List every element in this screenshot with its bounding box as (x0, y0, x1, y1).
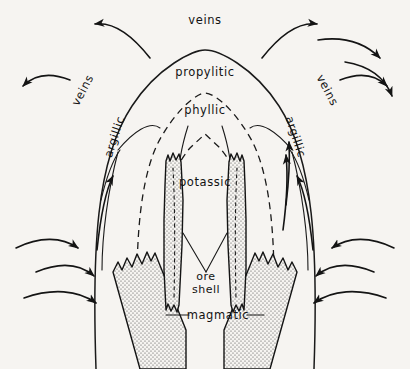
argillic-flank-lines (102, 152, 308, 270)
label-ore-shell-line1: ore (196, 270, 215, 283)
ore-shell-leader-lines (183, 233, 227, 272)
label-veins-top: veins (188, 13, 221, 27)
flow-arrows-lower-right (314, 239, 394, 303)
flow-arrows-lower-left (16, 239, 96, 303)
interior-convection-arrows (97, 142, 313, 250)
label-veins-left: veins (68, 72, 96, 108)
label-argillic-left: argillic (101, 114, 128, 159)
diagram-canvas: veins propylitic phyllic potassic veins … (0, 0, 410, 369)
label-magmatic: magmatic (187, 308, 250, 322)
label-propylitic: propylitic (175, 65, 234, 79)
label-ore-shell-line2: shell (192, 283, 220, 296)
label-potassic: potassic (179, 175, 231, 189)
label-veins-right: veins (314, 72, 342, 108)
label-argillic-right: argillic (283, 114, 310, 159)
label-phyllic: phyllic (184, 103, 226, 117)
alteration-zoning-diagram: veins propylitic phyllic potassic veins … (0, 0, 410, 369)
